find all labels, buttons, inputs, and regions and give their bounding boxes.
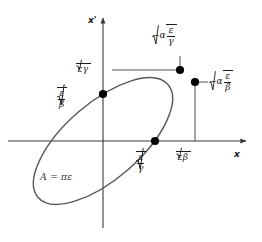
radicand: ε γ [166, 24, 176, 46]
radical-symbol-group: ε β [223, 70, 233, 92]
radicand: ε β [223, 70, 233, 92]
radical-symbol-group: εγ [76, 63, 91, 74]
fraction-numerator: ε [167, 26, 174, 36]
fraction: ε β [224, 72, 231, 92]
ellipse-area-annotation: A = πε [40, 172, 72, 182]
marker-dot-top-tangent-point [176, 66, 184, 74]
phase-space-ellipse-figure: x' x −α ε γ −α [0, 0, 262, 242]
guide-lines-group [112, 56, 208, 141]
marker-dot-right-extreme-point [191, 78, 199, 86]
radical-sign-icon [57, 83, 65, 106]
radical-symbol-group: εβ [176, 151, 191, 162]
label-sqrt-eps-beta: εβ [176, 147, 191, 163]
radical-sign-icon [152, 24, 159, 45]
radical-sign-icon [209, 70, 216, 91]
radical-sign-icon [176, 147, 182, 159]
fraction-numerator: ε [224, 72, 231, 82]
fraction: ε γ [167, 26, 174, 46]
radical-sign-icon [136, 147, 144, 170]
label-minus-alpha-sqrt-eps-over-gamma: −α ε γ [152, 24, 177, 46]
label-sqrt-eps-gamma: εγ [76, 59, 91, 75]
label-sqrt-eps-over-gamma: ε γ [136, 147, 146, 173]
x-axis-label: x [234, 150, 240, 159]
label-sqrt-eps-over-beta: ε β [57, 83, 67, 109]
radical-sign-icon [76, 59, 82, 71]
radical-symbol-group: ε γ [166, 24, 176, 46]
fraction-denominator: γ [167, 36, 174, 47]
figure-canvas [0, 0, 262, 242]
label-minus-alpha-sqrt-eps-over-beta: −α ε β [209, 70, 233, 92]
marker-dot-y-axis-intercept [99, 90, 107, 98]
radical-symbol-group: ε γ [136, 151, 146, 173]
fraction-denominator: β [224, 82, 231, 93]
radical-symbol-group: ε β [57, 87, 67, 109]
y-axis-label: x' [88, 16, 97, 25]
marker-dot-x-axis-intercept [151, 137, 159, 145]
